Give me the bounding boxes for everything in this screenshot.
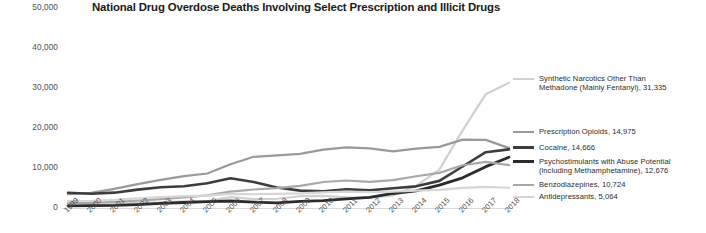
legend-label: Psychostimulants with Abuse Potential (i…	[539, 157, 670, 176]
legend-label: Benzodiazepines, 10,724	[539, 180, 625, 189]
plot-area	[68, 8, 509, 208]
chart-lines	[68, 8, 509, 208]
legend-label: Synthetic Narcotics Other Than Methadone…	[539, 74, 667, 93]
legend-color-swatch	[513, 146, 534, 149]
x-axis: 1999200020012002200320042005200620072008…	[68, 206, 509, 233]
y-axis-tick-label: 30,000	[0, 83, 62, 92]
overdose-deaths-chart: National Drug Overdose Deaths Involving …	[0, 0, 706, 233]
y-axis-tick-label: 40,000	[0, 43, 62, 52]
y-axis-tick-label: 20,000	[0, 123, 62, 132]
legend-antidepressants[interactable]: Antidepressants, 5,064	[513, 192, 618, 201]
legend-label: Prescription Opioids, 14,975	[539, 127, 636, 136]
legend-color-swatch	[513, 184, 534, 187]
legend-color-swatch	[513, 78, 534, 81]
y-axis-tick-label: 10,000	[0, 163, 62, 172]
legend-prescription-opioids[interactable]: Prescription Opioids, 14,975	[513, 127, 636, 136]
legend-color-swatch	[513, 196, 534, 199]
legend-cocaine[interactable]: Cocaine, 14,666	[513, 143, 595, 152]
legend-label: Antidepressants, 5,064	[539, 192, 618, 201]
legend-fentanyl[interactable]: Synthetic Narcotics Other Than Methadone…	[513, 74, 667, 93]
chart-legend: Synthetic Narcotics Other Than Methadone…	[509, 0, 706, 233]
legend-benzodiazepines[interactable]: Benzodiazepines, 10,724	[513, 180, 625, 189]
legend-psychostimulants[interactable]: Psychostimulants with Abuse Potential (i…	[513, 157, 670, 176]
y-axis-tick-label: 0	[0, 203, 62, 212]
legend-color-swatch	[513, 160, 534, 163]
legend-color-swatch	[513, 131, 534, 134]
y-axis: 010,00020,00030,00040,00050,000	[0, 0, 62, 233]
legend-label: Cocaine, 14,666	[539, 143, 595, 152]
x-axis-tick-label: 1999	[62, 196, 81, 215]
y-axis-tick-label: 50,000	[0, 3, 62, 12]
